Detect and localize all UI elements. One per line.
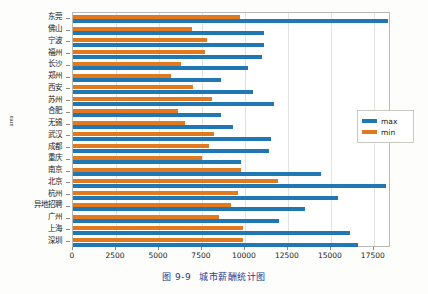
- y-tick-mark: [66, 100, 70, 101]
- bar-row: [73, 154, 389, 166]
- bar-min: [73, 191, 238, 195]
- bar-min: [73, 50, 205, 54]
- bar-chart-figure: area 东莞佛山宁波福州长沙郑州西安苏州合肥无锡武汉成都重庆南京北京杭州异地招…: [0, 0, 428, 266]
- x-tick-label: 2500: [105, 251, 124, 260]
- bar-row: [73, 48, 389, 60]
- y-tick-mark: [66, 159, 70, 160]
- y-tick-mark: [66, 112, 70, 113]
- bar-max: [73, 102, 274, 106]
- bar-max: [73, 196, 338, 200]
- y-tick-mark: [66, 88, 70, 89]
- caption-title: 城市薪酬统计图: [199, 272, 266, 282]
- x-tick-mark: [373, 247, 374, 250]
- y-tick-mark: [66, 182, 70, 183]
- bar-max: [73, 78, 221, 82]
- bar-row: [73, 107, 389, 119]
- bar-min: [73, 168, 241, 172]
- bar-row: [73, 178, 389, 190]
- bar-max: [73, 219, 279, 223]
- y-tick-label: 北京: [48, 178, 62, 186]
- y-tick-mark: [66, 124, 70, 125]
- x-tick-label: 0: [70, 251, 75, 260]
- bars-group: [73, 13, 389, 246]
- bar-max: [73, 90, 253, 94]
- legend-swatch-icon: [362, 130, 377, 134]
- bar-max: [73, 125, 233, 129]
- bar-min: [73, 144, 209, 148]
- bar-row: [73, 95, 389, 107]
- bar-row: [73, 13, 389, 25]
- x-tick-label: 5000: [148, 251, 167, 260]
- y-tick-mark: [66, 53, 70, 54]
- y-tick-label: 长沙: [48, 60, 62, 68]
- y-tick-mark: [66, 30, 70, 31]
- y-tick-mark: [66, 229, 70, 230]
- x-tick-mark: [115, 247, 116, 250]
- y-tick-label: 无锡: [48, 119, 62, 127]
- bar-max: [73, 231, 350, 235]
- bar-min: [73, 238, 243, 242]
- bar-min: [73, 97, 212, 101]
- bar-max: [73, 137, 271, 141]
- x-tick-label: 10000: [232, 251, 256, 260]
- bar-min: [73, 85, 193, 89]
- bar-max: [73, 43, 264, 47]
- bar-min: [73, 226, 243, 230]
- y-tick-mark: [66, 147, 70, 148]
- y-tick-label: 福州: [48, 49, 62, 57]
- x-tick-mark: [158, 247, 159, 250]
- y-tick-mark: [66, 218, 70, 219]
- bar-row: [73, 25, 389, 37]
- x-tick-label: 7500: [191, 251, 210, 260]
- bar-row: [73, 166, 389, 178]
- legend-item-max[interactable]: max: [362, 116, 409, 126]
- y-tick-label: 杭州: [48, 190, 62, 198]
- y-tick-mark: [66, 18, 70, 19]
- bar-max: [73, 207, 305, 211]
- y-tick-label: 佛山: [48, 25, 62, 33]
- y-tick-mark: [66, 77, 70, 78]
- bar-row: [73, 213, 389, 225]
- bar-min: [73, 156, 202, 160]
- legend-item-min[interactable]: min: [362, 127, 409, 137]
- x-tick-label: 12500: [275, 251, 299, 260]
- y-axis-tick-labels: 东莞佛山宁波福州长沙郑州西安苏州合肥无锡武汉成都重庆南京北京杭州异地招聘广州上海…: [0, 12, 70, 247]
- y-tick-label: 武汉: [48, 131, 62, 139]
- chart-legend[interactable]: maxmin: [357, 110, 414, 143]
- y-tick-label: 宁波: [48, 37, 62, 45]
- figure-container: area 东莞佛山宁波福州长沙郑州西安苏州合肥无锡武汉成都重庆南京北京杭州异地招…: [0, 0, 428, 294]
- y-tick-mark: [66, 171, 70, 172]
- bar-row: [73, 119, 389, 131]
- y-tick-label: 深圳: [48, 237, 62, 245]
- x-tick-mark: [244, 247, 245, 250]
- y-tick-mark: [66, 194, 70, 195]
- x-tick-mark: [330, 247, 331, 250]
- x-axis-tick-labels: 025005000750010000125001500017500: [72, 247, 390, 265]
- bar-max: [73, 149, 269, 153]
- y-tick-label: 重庆: [48, 154, 62, 162]
- bar-row: [73, 189, 389, 201]
- bar-min: [73, 179, 278, 183]
- bar-min: [73, 109, 178, 113]
- bar-max: [73, 113, 221, 117]
- bar-row: [73, 72, 389, 84]
- bar-min: [73, 38, 207, 42]
- legend-swatch-icon: [362, 119, 377, 123]
- bar-max: [73, 66, 248, 70]
- bar-min: [73, 203, 231, 207]
- bar-row: [73, 131, 389, 143]
- bar-row: [73, 60, 389, 72]
- legend-label: min: [381, 128, 395, 137]
- bar-row: [73, 225, 389, 237]
- bar-min: [73, 62, 181, 66]
- plot-area: [72, 12, 390, 247]
- y-tick-mark: [66, 41, 70, 42]
- y-tick-label: 西安: [48, 84, 62, 92]
- x-tick-mark: [201, 247, 202, 250]
- caption-number: 图 9-9: [162, 272, 191, 282]
- y-tick-label: 苏州: [48, 96, 62, 104]
- y-tick-mark: [66, 206, 70, 207]
- y-tick-label: 异地招聘: [34, 201, 62, 209]
- bar-min: [73, 15, 240, 19]
- figure-caption: 图 9-9城市薪酬统计图: [0, 270, 428, 283]
